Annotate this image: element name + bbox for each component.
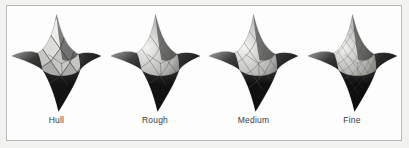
star-surface-fine bbox=[303, 8, 402, 116]
panel-label-hull: Hull bbox=[7, 115, 106, 126]
star-surface-hull bbox=[7, 8, 106, 116]
star-render-fine bbox=[303, 8, 402, 116]
panel-medium: Medium bbox=[204, 8, 303, 140]
figure-root: HullRoughMediumFine bbox=[0, 0, 409, 148]
panel-label-fine: Fine bbox=[303, 115, 402, 126]
star-render-rough bbox=[106, 8, 205, 116]
panel-hull: Hull bbox=[7, 8, 106, 140]
figure-frame: HullRoughMediumFine bbox=[6, 5, 402, 141]
star-render-hull bbox=[7, 8, 106, 116]
star-render-medium bbox=[204, 8, 303, 116]
panel-fine: Fine bbox=[303, 8, 402, 140]
star-surface-medium bbox=[204, 8, 303, 116]
star-surface-rough bbox=[106, 8, 205, 116]
figure-canvas: HullRoughMediumFine bbox=[7, 6, 401, 140]
panel-rough: Rough bbox=[106, 8, 205, 140]
panel-label-rough: Rough bbox=[106, 115, 205, 126]
panel-label-medium: Medium bbox=[204, 115, 303, 126]
